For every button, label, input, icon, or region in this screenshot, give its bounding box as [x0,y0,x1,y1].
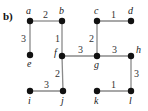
edge-weight-b-f: 1 [55,33,60,44]
node-h [128,53,134,59]
node-label-f: f [54,47,58,58]
weighted-graph: b) 23112332331 abcdefghijkl [0,0,148,111]
edge-weight-c-d: 1 [111,9,116,20]
node-label-j: j [59,95,64,106]
edge-weight-c-g: 2 [89,33,94,44]
node-d [128,18,134,24]
node-label-e: e [27,58,32,69]
edge-weight-i-j: 3 [44,79,49,90]
node-label-l: l [129,95,132,106]
edge-weight-k-l: 1 [111,79,116,90]
node-label-k: k [94,95,99,106]
node-label-b: b [59,5,64,16]
node-label-g: g [94,59,99,70]
node-c [94,18,100,24]
edge-weight-a-e: 3 [21,33,26,44]
node-f [59,53,65,59]
edge-weight-f-j: 2 [55,68,60,79]
node-i [27,88,33,94]
node-b [59,18,65,24]
edge-weight-a-b: 2 [43,9,48,20]
node-j [60,88,66,94]
node-label-c: c [94,5,99,16]
node-a [27,18,33,24]
edge-weight-g-h: 3 [112,44,117,55]
node-label-i: i [28,95,31,106]
node-label-h: h [136,44,141,55]
edge-weight-f-g: 3 [78,44,83,55]
node-label-a: a [26,5,31,16]
edge-f-j [62,56,63,91]
node-label-d: d [128,5,134,16]
node-l [128,88,134,94]
edge-weight-h-l: 3 [134,68,139,79]
node-k [94,88,100,94]
figure-label: b) [3,10,13,23]
